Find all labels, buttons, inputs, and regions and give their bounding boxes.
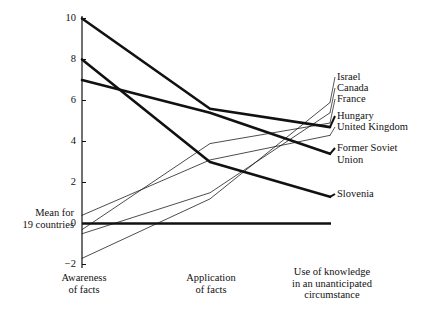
series-line-canada: [82, 113, 330, 234]
series-line-france: [82, 123, 330, 230]
label-connector: [330, 148, 335, 154]
series-label-france: France: [337, 93, 366, 105]
series-label-canada: Canada: [337, 82, 369, 94]
series-label-israel: Israel: [337, 71, 360, 83]
x-category-label-application: Application of facts: [165, 272, 257, 295]
label-connector: [330, 127, 335, 135]
y-tick-label: 10: [50, 13, 76, 24]
label-connector: [330, 116, 335, 127]
y-tick-label: 2: [50, 177, 76, 188]
y-tick-label: 8: [50, 54, 76, 65]
x-category-label-awareness: Awareness of facts: [38, 272, 130, 295]
series-line-israel: [82, 103, 330, 259]
y-tick-label: 6: [50, 95, 76, 106]
series-label-united-kingdom: United Kingdom: [337, 121, 408, 133]
series-line-united-kingdom: [82, 135, 330, 215]
series-label-slovenia: Slovenia: [337, 188, 374, 200]
y-tick-label: 4: [50, 136, 76, 147]
series-label-hungary: Hungary: [337, 110, 374, 122]
label-connector: [330, 194, 335, 197]
series-label-former-soviet: Former Soviet Union: [337, 142, 397, 165]
mean-reference-label: Mean for 19 countries: [4, 207, 74, 230]
line-chart: 1086420−2 Mean for 19 countries Awarenes…: [0, 0, 431, 313]
y-tick-label: −2: [50, 259, 76, 270]
x-category-label-use-of-knowledge: Use of knowledge in an unanticipated cir…: [262, 266, 402, 301]
label-connectors: [330, 77, 335, 197]
series-line-slovenia: [82, 60, 330, 197]
